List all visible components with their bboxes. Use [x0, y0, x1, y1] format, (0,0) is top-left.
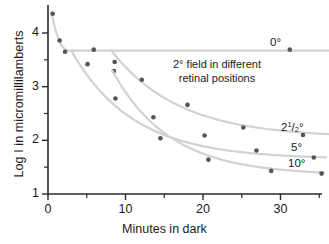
series-label-5deg: 5°	[291, 141, 302, 153]
series-label-0deg: 0°	[270, 36, 281, 48]
chart-annotation: 2° field in different retinal positions	[158, 58, 276, 85]
y-tick-label: 2	[19, 132, 39, 146]
series-label-10deg: 10°	[288, 157, 305, 169]
x-tick-label: 30	[269, 202, 293, 216]
dark-adaptation-chart: Log I in micromillilamberts Minutes in d…	[0, 0, 329, 244]
y-tick-label: 1	[19, 186, 39, 200]
y-tick-label: 3	[19, 79, 39, 93]
y-tick-label: 4	[19, 25, 39, 39]
series-label-2point5deg: 21/2°	[281, 120, 304, 134]
x-tick-label: 20	[191, 202, 215, 216]
y-axis-title: Log I in micromillilamberts	[12, 14, 26, 194]
cropped-caption	[8, 237, 308, 244]
annotation-line-2: retinal positions	[158, 72, 276, 86]
x-tick-label: 0	[36, 202, 60, 216]
series-curve-0	[50, 11, 328, 54]
annotation-line-1: 2° field in different	[158, 58, 276, 72]
x-axis-title: Minutes in dark	[0, 222, 329, 236]
x-tick-label: 10	[114, 202, 138, 216]
